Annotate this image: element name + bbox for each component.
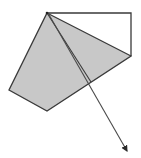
geometry-diagram — [0, 0, 141, 158]
top-vertex-dot — [46, 12, 49, 15]
